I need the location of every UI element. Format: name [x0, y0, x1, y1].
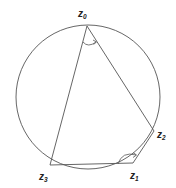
label-z3: z3 — [38, 171, 48, 183]
circle-diagram: z0 z1 z2 z3 — [0, 0, 176, 188]
edge-z3-z0 — [50, 26, 87, 165]
edge-z2-z1 — [133, 131, 154, 163]
label-z2: z2 — [156, 129, 166, 141]
label-z1: z1 — [129, 170, 139, 182]
circumcircle — [16, 25, 160, 169]
edge-z0-z2 — [87, 26, 154, 131]
label-z0: z0 — [77, 8, 87, 20]
